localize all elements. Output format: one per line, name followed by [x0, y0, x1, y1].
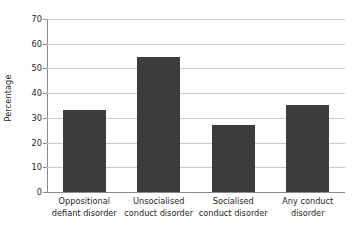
- x-axis-category-label-line: defiant disorder: [47, 208, 122, 220]
- x-axis-category-label-line: Oppositional: [47, 196, 122, 208]
- bar: [137, 57, 180, 192]
- bar: [286, 105, 329, 192]
- x-axis-category-label-line: Any conduct: [271, 196, 346, 208]
- bar: [63, 110, 106, 192]
- y-tick-label: 0: [16, 188, 42, 196]
- x-axis-category-label: Any conductdisorder: [271, 196, 346, 219]
- y-tick-label: 30: [16, 114, 42, 122]
- gridline: [47, 19, 345, 20]
- y-tick-label: 40: [16, 89, 42, 97]
- x-axis-category-label-line: Socialised: [196, 196, 271, 208]
- plot-area: [47, 19, 345, 192]
- gridline: [47, 93, 345, 94]
- x-axis-category-label: Socialisedconduct disorder: [196, 196, 271, 219]
- y-axis-title: Percentage: [0, 0, 16, 195]
- bar-chart: Percentage 010203040506070 Oppositionald…: [0, 0, 353, 238]
- gridline: [47, 44, 345, 45]
- x-axis-category-label: Unsocialisedconduct disorder: [122, 196, 197, 219]
- y-tick-label: 50: [16, 64, 42, 72]
- y-tick-label: 20: [16, 139, 42, 147]
- y-axis-title-text: Percentage: [3, 74, 13, 121]
- gridline: [47, 68, 345, 69]
- x-axis-category-label-line: conduct disorder: [196, 208, 271, 220]
- x-axis-category-label-line: conduct disorder: [122, 208, 197, 220]
- bar: [212, 125, 255, 192]
- y-tick-label: 60: [16, 40, 42, 48]
- x-axis-category-label-line: Unsocialised: [122, 196, 197, 208]
- y-tick-label: 70: [16, 15, 42, 23]
- x-axis-baseline: [47, 192, 345, 193]
- x-axis-category-label-line: disorder: [271, 208, 346, 220]
- x-axis-category-label: Oppositionaldefiant disorder: [47, 196, 122, 219]
- y-tick-label: 10: [16, 163, 42, 171]
- x-axis-labels: Oppositionaldefiant disorderUnsocialised…: [47, 196, 345, 236]
